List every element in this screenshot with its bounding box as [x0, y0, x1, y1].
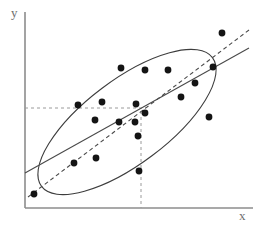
data-point	[210, 64, 217, 71]
data-point	[142, 110, 149, 117]
data-point	[136, 168, 143, 175]
data-point	[92, 117, 99, 124]
data-point	[135, 133, 142, 140]
plot-canvas	[0, 0, 262, 231]
data-point	[116, 119, 123, 126]
y-axis-label: y	[11, 6, 18, 19]
data-point	[206, 114, 213, 121]
data-point	[93, 155, 100, 162]
data-point	[132, 119, 139, 126]
data-point	[71, 160, 78, 167]
data-point	[118, 65, 125, 72]
data-point	[165, 67, 172, 74]
data-point	[219, 30, 226, 37]
data-point	[75, 102, 82, 109]
data-point	[31, 191, 38, 198]
data-point	[178, 94, 185, 101]
x-axis-label: x	[239, 209, 246, 222]
scatter-plot-figure: y x	[0, 0, 262, 231]
data-point	[192, 80, 199, 87]
data-point	[99, 99, 106, 106]
data-point	[142, 67, 149, 74]
confidence-ellipse	[16, 24, 237, 220]
reference-lines-group	[25, 108, 146, 208]
data-point	[133, 101, 140, 108]
confidence-ellipse-group	[16, 24, 237, 220]
